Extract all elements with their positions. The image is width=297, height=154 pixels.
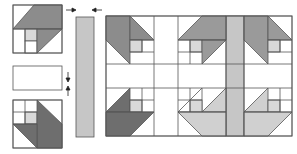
arrow-right-icon <box>66 8 76 12</box>
assembled-quilt <box>106 16 292 136</box>
quilt-diagram <box>0 0 297 154</box>
arrow-up-icon <box>66 86 70 96</box>
bottom-unit <box>13 100 62 148</box>
vertical-strip <box>76 17 94 137</box>
arrow-left-icon <box>92 8 102 12</box>
arrow-down-icon <box>66 72 70 82</box>
top-unit <box>13 5 62 53</box>
middle-strip <box>13 66 62 90</box>
